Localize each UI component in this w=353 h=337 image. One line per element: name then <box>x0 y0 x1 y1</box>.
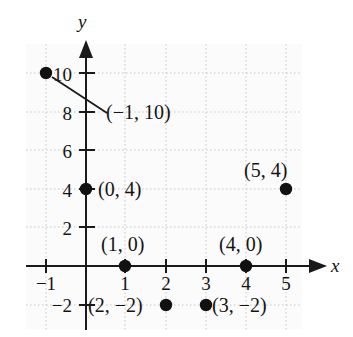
point-label-5-4: (5, 4) <box>244 160 287 180</box>
data-point-4-0[interactable] <box>240 260 252 272</box>
y-tick-label-10: 10 <box>38 65 72 84</box>
point-label-neg1-10: (−1, 10) <box>106 102 171 122</box>
data-point-2-neg2[interactable] <box>160 299 172 311</box>
y-tick-label-neg2: −2 <box>38 296 72 315</box>
y-tick-label-2: 2 <box>38 219 72 238</box>
y-tick-label-6: 6 <box>38 142 72 161</box>
x-axis-label: x <box>331 256 339 275</box>
x-tick-label-neg1: −1 <box>24 274 68 293</box>
point-label-1-0: (1, 0) <box>101 234 144 254</box>
x-tick-label-2: 2 <box>146 274 186 293</box>
data-point-3-neg2[interactable] <box>200 299 212 311</box>
y-tick-label-8: 8 <box>38 104 72 123</box>
point-label-4-0: (4, 0) <box>219 234 262 254</box>
y-axis-label: y <box>78 12 86 31</box>
point-label-3-neg2: (3, −2) <box>212 295 267 315</box>
y-tick-label-4: 4 <box>38 181 72 200</box>
data-point-5-4[interactable] <box>280 183 292 195</box>
x-tick-label-3: 3 <box>186 274 226 293</box>
data-point-1-0[interactable] <box>119 260 131 272</box>
point-label-2-neg2: (2, −2) <box>88 295 143 315</box>
data-point-0-4[interactable] <box>80 183 92 195</box>
point-label-0-4: (0, 4) <box>98 179 141 199</box>
x-tick-label-5: 5 <box>266 274 306 293</box>
x-tick-label-1: 1 <box>105 274 145 293</box>
x-tick-label-4: 4 <box>226 274 266 293</box>
coordinate-plane-figure: 10 8 6 4 2 −2 −1 1 2 3 4 5 y x (−1, 10) … <box>0 0 353 337</box>
